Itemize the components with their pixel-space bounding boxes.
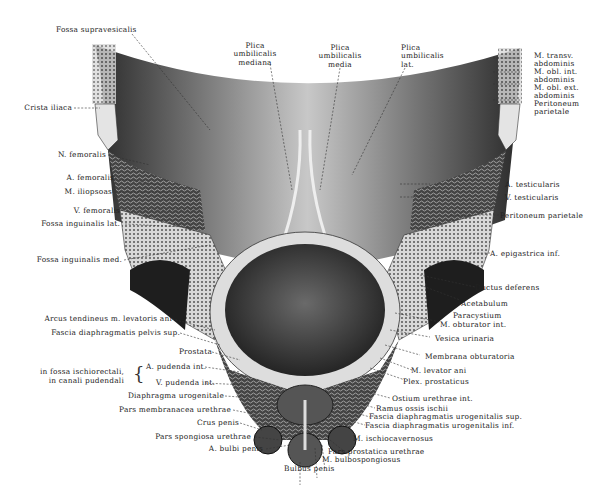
label-line: in canali pudendali xyxy=(40,376,124,385)
label-m-obturator-int: M. obturator int. xyxy=(440,321,506,329)
label-crus-penis: Crus penis xyxy=(197,419,239,427)
label-fossa-supravesicalis: Fossa supravesicalis xyxy=(56,26,137,34)
label-plex-prostaticus: Plex. prostaticus xyxy=(403,378,469,386)
label-membrana-obturatoria: Membrana obturatoria xyxy=(425,353,515,361)
label-plica-umbilicalis-media: Plica umbilicalis media xyxy=(310,44,370,69)
label-prostata: Prostata xyxy=(179,348,212,356)
label-m-iliopsoas: M. iliopsoas xyxy=(65,188,112,196)
label-fascia-urogenitalis-inf: Fascia diaphragmatis urogenitalis inf. xyxy=(365,422,514,430)
left-wall-muscle-layers xyxy=(92,44,116,104)
label-a-pudenda-int: A. pudenda int. xyxy=(146,363,206,371)
label-bulbus-penis: Bulbus penis xyxy=(284,465,335,473)
label-pars-spongiosa-urethrae: Pars spongiosa urethrae xyxy=(155,433,251,441)
label-a-epigastrica-inf: A. epigastrica inf. xyxy=(490,250,560,258)
label-line: mediana xyxy=(225,59,285,67)
label-fascia-diaphragmatis-pelvis-sup: Fascia diaphragmatis pelvis sup. xyxy=(51,329,180,337)
label-acetabulum: Acetabulum xyxy=(461,300,508,308)
label-line: in fossa ischiorectali, xyxy=(40,367,124,376)
label-fossa-inguinalis-lat: Fossa inguinalis lat. xyxy=(41,220,120,228)
label-ostium-urethrae-int: Ostium urethrae int. xyxy=(392,395,473,403)
label-line: parietale xyxy=(534,108,579,116)
label-m-ischiocavernosus: M. ischiocavernosus xyxy=(353,435,433,443)
label-peritoneum-parietale-top: Peritoneum parietale xyxy=(534,100,579,117)
label-ductus-deferens: Ductus deferens xyxy=(475,284,539,292)
label-plica-umbilicalis-mediana: Plica umbilicalis mediana xyxy=(225,42,285,67)
label-v-pudenda-int: V. pudenda int. xyxy=(156,379,215,387)
label-fossa-inguinalis-med: Fossa inguinalis med. xyxy=(37,256,122,264)
label-pars-membranacea-urethrae: Pars membranacea urethrae xyxy=(119,406,231,414)
brace-symbol: { xyxy=(133,362,145,386)
left-iliac-crest xyxy=(95,104,118,150)
label-m-bulbospongiosus: M. bulbospongiosus xyxy=(322,456,401,464)
label-n-femoralis: N. femoralis xyxy=(58,151,106,159)
label-m-levator-ani: M. levator ani xyxy=(411,367,466,375)
label-line: media xyxy=(310,61,370,69)
label-a-testicularis: A. testicularis xyxy=(505,181,560,189)
label-plica-umbilicalis-lat: Plica umbilicalis lat. xyxy=(401,44,444,69)
label-crista-iliaca: Crista iliaca xyxy=(24,104,72,112)
label-a-femoralis: A. femoralis xyxy=(67,174,114,182)
label-v-femoralis: V. femoralis xyxy=(74,207,120,215)
label-arcus-tendineus: Arcus tendineus m. levatoris ani xyxy=(44,315,172,323)
label-vesica-urinaria: Vesica urinaria xyxy=(435,335,494,343)
bladder-lumen xyxy=(225,244,385,376)
label-line: lat. xyxy=(401,61,444,69)
label-a-bulbi-penis: A. bulbi penis xyxy=(209,445,263,453)
label-group-caption: in fossa ischiorectali, in canali pudend… xyxy=(40,367,124,385)
label-peritoneum-parietale: Peritoneum parietale xyxy=(500,212,583,220)
label-v-testicularis: V. testicularis xyxy=(505,194,559,202)
label-diaphragma-urogenitale: Diaphragma urogenitale xyxy=(128,392,224,400)
